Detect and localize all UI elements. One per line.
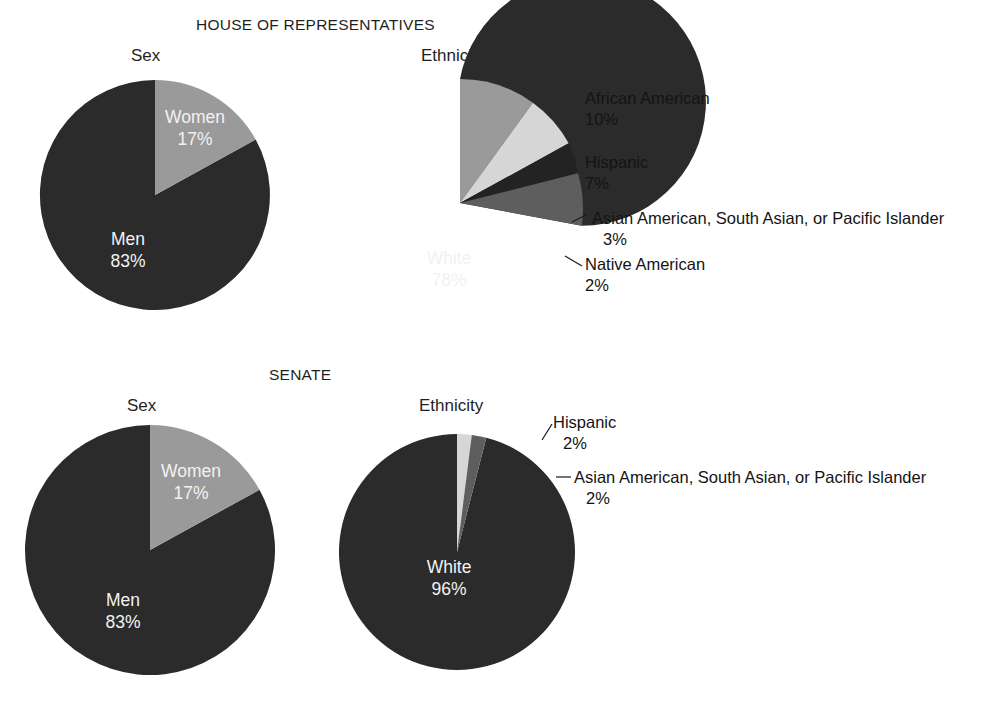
leader-line-senate-hispanic xyxy=(542,424,552,440)
congress-demographics-figure: HOUSE OF REPRESENTATIVES Sex Women 17% M… xyxy=(0,0,1002,714)
leader-lines-senate xyxy=(0,0,1002,714)
